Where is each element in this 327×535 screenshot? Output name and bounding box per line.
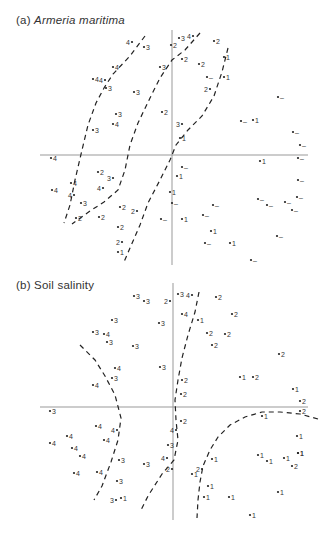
panel-b-data-point: 4 — [49, 440, 56, 447]
panel-b-data-point: 2 — [224, 331, 231, 338]
point-class-label: – — [260, 196, 264, 203]
panel-b-data-point: 1 — [211, 456, 218, 463]
point-class-label: 2 — [196, 466, 200, 473]
point-marker — [202, 214, 204, 216]
point-class-label: 2 — [101, 214, 105, 221]
panel-a-data-point: 4 — [112, 64, 119, 71]
point-class-label: 2 — [164, 109, 168, 116]
point-marker — [181, 379, 183, 381]
point-marker — [92, 78, 94, 80]
panel-a-plot: 434443334332234222–211––1–31––1–1–1–––––… — [40, 30, 308, 265]
point-marker — [206, 76, 208, 78]
point-marker — [96, 471, 98, 473]
point-marker — [171, 202, 173, 204]
point-marker — [73, 472, 75, 474]
panel-b-data-point: 1 — [296, 433, 303, 440]
point-marker — [292, 131, 294, 133]
point-class-label: 2 — [227, 331, 231, 338]
point-marker — [117, 226, 119, 228]
point-marker — [92, 331, 94, 333]
panel-b-data-point: 4 — [92, 382, 99, 389]
point-class-label: 3 — [180, 291, 184, 298]
point-class-label: 2 — [214, 342, 218, 349]
point-marker — [132, 345, 134, 347]
panel-a-data-point: 4 — [97, 185, 104, 192]
panel-b-data-point: 1 — [197, 317, 204, 324]
point-class-label: – — [253, 257, 257, 264]
point-class-label: – — [299, 194, 303, 201]
point-marker — [103, 333, 105, 335]
point-marker — [102, 187, 104, 189]
panel-a-data-point: – — [250, 257, 257, 264]
point-marker — [97, 171, 99, 173]
point-marker — [119, 206, 121, 208]
point-class-label: 2 — [166, 466, 170, 473]
point-marker — [277, 491, 279, 493]
point-marker — [291, 465, 293, 467]
panel-a-data-point: – — [212, 202, 219, 209]
panel-a-dashed-boundary-2 — [72, 33, 200, 224]
point-class-label: – — [279, 233, 283, 240]
point-marker — [49, 410, 51, 412]
point-class-label: – — [184, 164, 188, 171]
panel-a-data-point: 3 — [178, 35, 185, 42]
panel-b-data-point: 4 — [186, 292, 193, 299]
panel-a-data-point: 4 — [50, 155, 57, 162]
point-class-label: 3 — [162, 64, 166, 71]
panel-a-data-point: 2 — [198, 61, 205, 68]
point-marker — [296, 196, 298, 198]
point-marker — [297, 452, 299, 454]
point-class-label: 1 — [172, 189, 176, 196]
point-marker — [266, 204, 268, 206]
point-class-label: 3 — [136, 293, 140, 300]
point-class-label: – — [295, 129, 299, 136]
panel-a-data-point: 4 — [112, 121, 119, 128]
point-class-label: – — [287, 199, 291, 206]
point-marker — [136, 210, 138, 212]
panel-b-data-point: 1 — [257, 452, 264, 459]
point-marker — [116, 429, 118, 431]
point-class-label: 4 — [187, 33, 191, 40]
point-class-label: 4 — [170, 427, 174, 434]
panel-b-data-point: 3 — [118, 457, 125, 464]
panel-a-data-point: 2 — [98, 214, 105, 221]
point-marker — [49, 442, 51, 444]
point-marker — [215, 296, 217, 298]
panel-b-data-point: 1 — [266, 458, 273, 465]
point-marker — [111, 377, 113, 379]
panel-b-data-point: 2 — [180, 391, 187, 398]
point-class-label: 3 — [176, 121, 180, 128]
point-class-label: 2 — [173, 42, 177, 49]
point-marker — [176, 175, 178, 177]
point-marker — [181, 313, 183, 315]
panel-b-data-point: 4 — [161, 455, 168, 462]
point-marker — [104, 79, 106, 81]
panel-b-data-point: 1 — [261, 413, 268, 420]
panel-b-data-point: 3 — [133, 293, 140, 300]
panel-a-data-point: 4 — [92, 76, 99, 83]
point-marker — [257, 454, 259, 456]
point-class-label: 4 — [161, 455, 165, 462]
point-marker — [292, 388, 294, 390]
panel-b-data-point: 2 — [278, 351, 285, 358]
point-marker — [180, 393, 182, 395]
point-class-label: 2 — [234, 311, 238, 318]
panel-b-data-point: 3 — [111, 375, 118, 382]
panel-b-data-point: 2 — [291, 463, 298, 470]
point-marker — [296, 435, 298, 437]
panel-a-data-point: – — [160, 216, 167, 223]
panel-b-data-point: 1 — [228, 494, 235, 501]
panel-a-data-point: 2 — [204, 86, 211, 93]
point-marker — [70, 182, 72, 184]
point-marker — [177, 293, 179, 295]
point-class-label: – — [207, 240, 211, 247]
point-class-label: 4 — [95, 382, 99, 389]
point-marker — [80, 202, 82, 204]
point-class-label: 1 — [232, 240, 236, 247]
point-class-label: 4 — [69, 433, 73, 440]
point-marker — [92, 129, 94, 131]
point-class-label: 4 — [98, 423, 102, 430]
point-class-label: 4 — [99, 77, 103, 84]
point-class-label: 4 — [106, 331, 110, 338]
point-class-label: 1 — [264, 413, 268, 420]
